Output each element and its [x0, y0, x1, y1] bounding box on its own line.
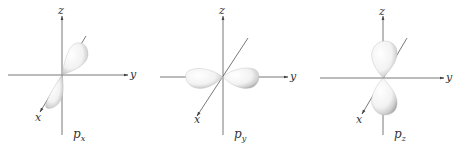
orbital-label-px: px — [73, 128, 85, 143]
x-axis-label: x — [35, 112, 41, 123]
x-axis-label: x — [194, 114, 200, 125]
orbital-label-py: py — [234, 128, 246, 143]
orbital-label-main: p — [73, 127, 81, 141]
z-axis-label: z — [379, 6, 385, 17]
orbital-lobe-upper — [62, 43, 88, 75]
orbital-label-main: p — [394, 127, 402, 141]
orbital-label-sub: z — [402, 134, 406, 143]
z-axis-label: z — [219, 5, 225, 16]
panel-pz — [320, 16, 444, 135]
orbital-label-sub: y — [242, 134, 247, 143]
orbital-lobe-right — [223, 68, 259, 88]
orbital-label-pz: pz — [394, 128, 406, 143]
orbital-lobe-top — [372, 41, 397, 78]
y-axis-label: y — [446, 72, 452, 83]
orbital-diagram-canvas — [0, 0, 460, 147]
x-axis-label: x — [356, 114, 362, 125]
orbital-label-main: p — [234, 127, 242, 141]
y-axis-label: y — [130, 69, 136, 80]
panel-py — [160, 16, 288, 135]
z-axis-label: z — [58, 5, 64, 16]
panel-px — [8, 16, 128, 135]
y-axis-label: y — [290, 71, 296, 82]
orbital-lobe-lower — [46, 75, 64, 109]
orbital-label-sub: x — [81, 134, 86, 143]
orbital-lobe-bottom — [372, 78, 397, 115]
